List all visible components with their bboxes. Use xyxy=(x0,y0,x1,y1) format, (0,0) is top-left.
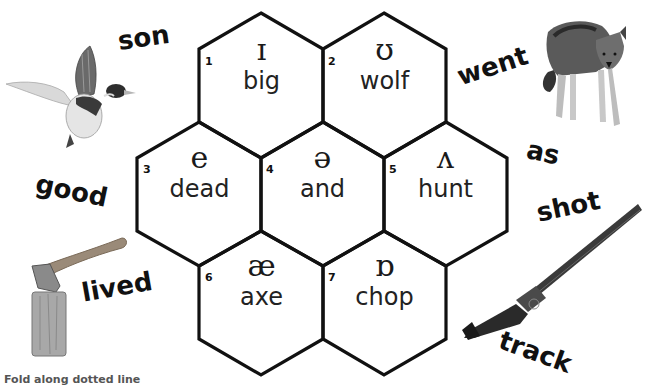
fold-instruction: Fold along dotted line xyxy=(4,373,140,386)
phonetic-symbol: ə xyxy=(261,142,384,174)
example-word: axe xyxy=(200,282,323,312)
hexagon-5: ʌ hunt xyxy=(384,142,507,204)
duck-image xyxy=(4,44,136,150)
example-word: chop xyxy=(323,282,446,312)
hexagon-4: ə and xyxy=(261,142,384,204)
wolf-image xyxy=(540,12,630,130)
hexagon-7: ɒ chop xyxy=(323,250,446,312)
phonetic-symbol: æ xyxy=(200,250,323,282)
example-word: dead xyxy=(138,174,261,204)
phonetic-symbol: e xyxy=(138,142,261,174)
phonetic-symbol: ɪ xyxy=(200,34,323,66)
phonetic-symbol: ʊ xyxy=(323,34,446,66)
example-word: and xyxy=(261,174,384,204)
hexagon-2: ʊ wolf xyxy=(323,34,446,96)
phonetic-symbol: ɒ xyxy=(323,250,446,282)
axe-in-log-image xyxy=(26,230,130,360)
hexagon-3: e dead xyxy=(138,142,261,204)
example-word: big xyxy=(200,66,323,96)
word-as: as xyxy=(524,134,563,170)
hexagon-1: ɪ big xyxy=(200,34,323,96)
shotgun-image xyxy=(462,200,644,340)
example-word: wolf xyxy=(323,66,446,96)
hexagon-6: æ axe xyxy=(200,250,323,312)
phonetic-symbol: ʌ xyxy=(384,142,507,174)
